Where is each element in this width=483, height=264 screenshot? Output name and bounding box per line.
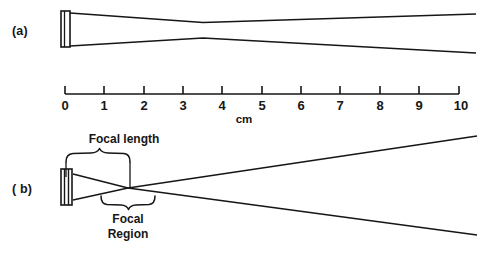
ruler-tick-label-1: 1 — [100, 98, 107, 113]
focal-region-brace-curve — [101, 196, 155, 210]
focal-region-brace — [101, 196, 155, 210]
focal-region-label-line-2: Region — [108, 227, 149, 241]
ultrasound-beam-profile-figure: (a) ( b) 0 1 2 3 4 5 6 7 8 9 10 cm Focal… — [0, 0, 483, 264]
transducer-a — [61, 11, 70, 47]
panel-label-b: ( b) — [12, 182, 32, 196]
ruler-tick-label-4: 4 — [218, 98, 225, 113]
focal-length-brace-curve — [66, 149, 130, 163]
panel-label-a: (a) — [12, 24, 28, 38]
focal-length-label: Focal length — [89, 132, 160, 146]
ruler-tick-label-10: 10 — [454, 98, 468, 113]
focal-length-brace — [66, 149, 130, 189]
ruler-tick-label-5: 5 — [258, 98, 265, 113]
ruler-tick-label-8: 8 — [376, 98, 383, 113]
panel-a-graphics — [61, 11, 476, 53]
transducer-a-body — [61, 11, 70, 47]
ruler-tick-label-2: 2 — [140, 98, 147, 113]
ruler-ticks — [65, 86, 459, 94]
scale-bar-graphics — [65, 86, 459, 94]
figure-line-art — [0, 0, 483, 264]
focal-region-label-line-1: Focal — [112, 212, 143, 226]
ruler-tick-label-0: 0 — [61, 98, 68, 113]
ruler-tick-label-9: 9 — [415, 98, 422, 113]
beam-a-upper-boundary — [70, 13, 476, 23]
ruler-tick-label-6: 6 — [297, 98, 304, 113]
ruler-tick-label-7: 7 — [336, 98, 343, 113]
ruler-tick-label-3: 3 — [179, 98, 186, 113]
beam-a-lower-boundary — [70, 38, 476, 53]
ruler-unit-label: cm — [236, 113, 253, 125]
